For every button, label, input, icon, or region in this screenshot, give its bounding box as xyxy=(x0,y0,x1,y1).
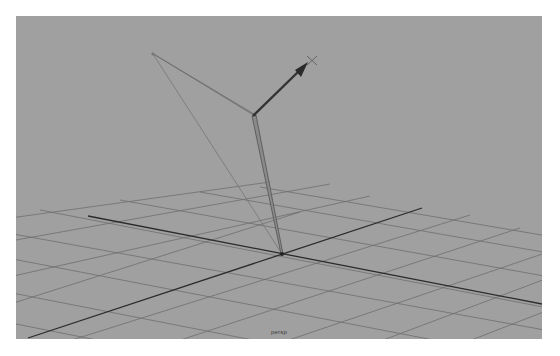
joint-end xyxy=(151,52,154,55)
locator-icon xyxy=(307,56,317,65)
arrow-head-icon xyxy=(295,62,308,77)
bone-mid-end xyxy=(152,53,255,116)
bone-root-mid xyxy=(252,115,283,254)
joint-root xyxy=(280,252,284,256)
camera-label: persp xyxy=(16,329,542,335)
pole-vector-arrow[interactable] xyxy=(254,56,317,115)
scene-canvas[interactable] xyxy=(16,16,542,339)
perspective-viewport[interactable]: persp xyxy=(16,16,542,339)
